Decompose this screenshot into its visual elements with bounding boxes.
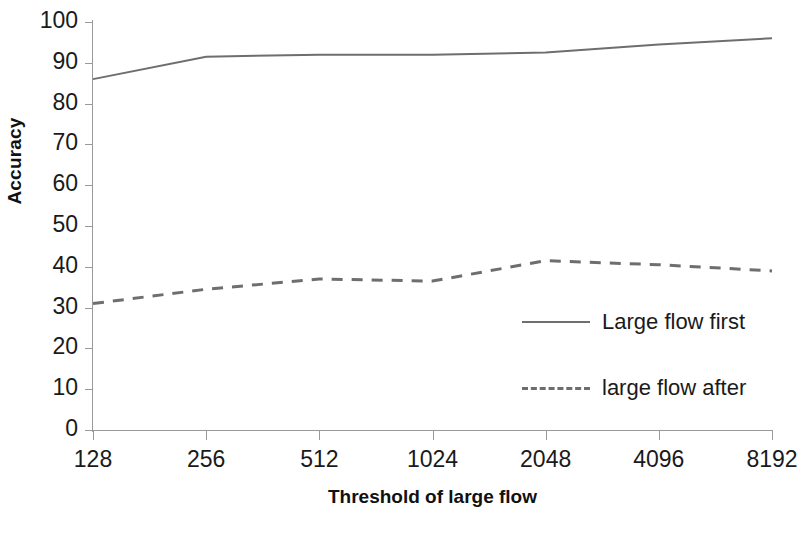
x-axis-tick-mark (319, 431, 320, 440)
legend: Large flow first large flow after (520, 300, 800, 410)
legend-swatch-solid-line-icon (520, 316, 592, 328)
series-line-large-flow-first (93, 38, 772, 79)
legend-label-large-flow-first: Large flow first (592, 309, 745, 335)
legend-item-large-flow-first: Large flow first (520, 300, 800, 344)
y-axis-tick-mark (85, 226, 93, 227)
y-axis-tick-label: 70 (0, 131, 78, 154)
y-axis-tick-mark (85, 185, 93, 186)
y-axis-tick-mark (85, 63, 93, 64)
y-axis-tick-mark (85, 267, 93, 268)
x-axis-tick-label: 2048 (486, 446, 606, 473)
x-axis-tick-mark (206, 431, 207, 440)
series-line-large-flow-after (93, 261, 772, 304)
y-axis-tick-label: 50 (0, 213, 78, 236)
x-axis-tick-label: 4096 (599, 446, 719, 473)
x-axis-tick-label: 512 (259, 446, 379, 473)
x-axis-tick-label: 256 (146, 446, 266, 473)
y-axis-tick-label: 10 (0, 376, 78, 399)
x-axis-tick-label: 1024 (373, 446, 493, 473)
x-axis-tick-mark (772, 431, 773, 440)
legend-swatch-dashed-line-icon (520, 382, 592, 394)
y-axis-tick-mark (85, 308, 93, 309)
y-axis-tick-mark (85, 348, 93, 349)
chart-container: Accuracy 1009080706050403020100 12825651… (0, 0, 804, 539)
y-axis-tick-mark (85, 389, 93, 390)
x-axis-tick-mark (546, 431, 547, 440)
x-axis-tick-label: 128 (33, 446, 153, 473)
y-axis-tick-mark (85, 22, 93, 23)
y-axis-tick-label: 100 (0, 9, 78, 32)
y-axis-tick-label: 60 (0, 172, 78, 195)
y-axis-tick-label: 20 (0, 335, 78, 358)
y-axis-tick-mark (85, 104, 93, 105)
y-axis-tick-label: 80 (0, 91, 78, 114)
x-axis-tick-mark (659, 431, 660, 440)
y-axis-tick-label: 40 (0, 254, 78, 277)
y-axis-tick-mark (85, 144, 93, 145)
y-axis-tick-mark (85, 430, 93, 431)
x-axis-tick-mark (93, 431, 94, 440)
x-axis-tick-label: 8192 (712, 446, 804, 473)
x-axis-tick-mark (433, 431, 434, 440)
y-axis-tick-label: 30 (0, 295, 78, 318)
legend-item-large-flow-after: large flow after (520, 366, 800, 410)
y-axis-tick-label: 90 (0, 50, 78, 73)
x-axis-title: Threshold of large flow (93, 486, 772, 508)
y-axis-tick-label: 0 (0, 417, 78, 440)
legend-label-large-flow-after: large flow after (592, 375, 746, 401)
